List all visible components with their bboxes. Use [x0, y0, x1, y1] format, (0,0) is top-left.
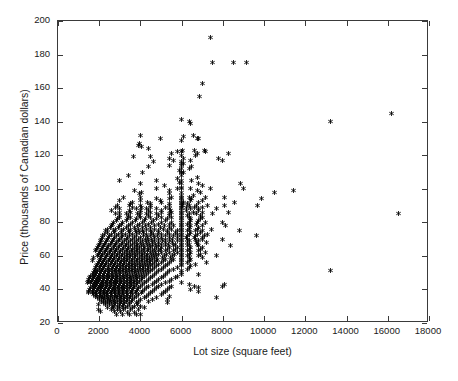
scatter-point	[120, 312, 125, 317]
x-tick-top	[182, 21, 183, 26]
x-tick	[223, 316, 224, 321]
x-tick-top	[305, 21, 306, 26]
y-tick	[58, 21, 63, 22]
scatter-point	[222, 195, 227, 200]
scatter-point	[146, 164, 151, 169]
x-tick	[305, 316, 306, 321]
scatter-point	[132, 188, 137, 193]
x-tick	[58, 316, 59, 321]
scatter-point	[188, 186, 193, 191]
scatter-point	[151, 159, 156, 164]
scatter-point	[146, 299, 151, 304]
scatter-point	[179, 138, 184, 143]
y-tick-right	[422, 256, 427, 257]
scatter-point	[232, 200, 237, 205]
scatter-point	[187, 166, 192, 171]
scatter-point	[140, 170, 145, 175]
scatter-point	[200, 81, 205, 86]
x-tick-label: 4000	[129, 326, 150, 336]
y-tick	[58, 88, 63, 89]
scatter-points-layer	[58, 21, 427, 321]
scatter-point	[244, 60, 249, 65]
x-tick-label: 12000	[291, 326, 317, 336]
scatter-point	[204, 260, 209, 265]
scatter-point	[165, 300, 170, 305]
scatter-point	[154, 186, 159, 191]
y-tick	[58, 155, 63, 156]
scatter-point	[98, 309, 103, 314]
scatter-point	[396, 211, 401, 216]
scatter-point	[188, 121, 193, 126]
x-tick-top	[140, 21, 141, 26]
scatter-point	[138, 181, 143, 186]
y-tick	[58, 256, 63, 257]
y-tick	[58, 222, 63, 223]
scatter-point	[210, 211, 215, 216]
scatter-point	[208, 35, 213, 40]
scatter-point	[226, 151, 231, 156]
y-tick	[58, 189, 63, 190]
plot-axes-frame	[57, 20, 428, 322]
scatter-point	[291, 188, 296, 193]
y-tick-right	[422, 289, 427, 290]
y-tick	[58, 55, 63, 56]
scatter-point	[142, 305, 147, 310]
scatter-point	[231, 60, 236, 65]
scatter-point	[254, 233, 259, 238]
x-tick	[347, 316, 348, 321]
x-tick-top	[388, 21, 389, 26]
scatter-point	[117, 178, 122, 183]
scatter-point	[196, 272, 201, 277]
y-tick-right	[422, 55, 427, 56]
scatter-point	[214, 295, 219, 300]
scatter-point	[208, 186, 213, 191]
y-axis-title: Price (thousands of Canadian dollars)	[18, 67, 30, 287]
y-tick-right	[422, 323, 427, 324]
x-tick	[388, 316, 389, 321]
scatter-point	[127, 312, 132, 317]
scatter-point	[223, 223, 228, 228]
y-tick-right	[422, 222, 427, 223]
scatter-point	[189, 178, 194, 183]
x-tick-label: 8000	[211, 326, 232, 336]
y-tick-right	[422, 88, 427, 89]
y-tick-label: 180	[0, 49, 50, 59]
scatter-point	[389, 111, 394, 116]
scatter-point	[241, 186, 246, 191]
scatter-point	[167, 163, 172, 168]
x-tick-top	[264, 21, 265, 26]
x-tick-label: 14000	[332, 326, 358, 336]
scatter-point	[131, 154, 136, 159]
scatter-point	[179, 280, 184, 285]
x-tick	[182, 316, 183, 321]
scatter-point	[188, 158, 193, 163]
scatter-point	[328, 268, 333, 273]
y-tick-right	[422, 155, 427, 156]
x-tick-label: 2000	[88, 326, 109, 336]
x-tick-label: 0	[54, 326, 59, 336]
scatter-point	[179, 117, 184, 122]
y-tick	[58, 289, 63, 290]
y-tick-right	[422, 122, 427, 123]
figure-scatter-plot: 0200040006000800010000120001400016000180…	[0, 0, 458, 381]
x-tick-label: 6000	[170, 326, 191, 336]
scatter-point	[259, 196, 264, 201]
scatter-point	[272, 190, 277, 195]
y-tick-right	[422, 189, 427, 190]
scatter-point	[195, 175, 200, 180]
scatter-point	[205, 203, 210, 208]
scatter-point	[146, 146, 151, 151]
x-tick	[264, 316, 265, 321]
scatter-point	[126, 173, 131, 178]
y-tick-label: 20	[0, 317, 50, 327]
x-tick-label: 18000	[415, 326, 441, 336]
scatter-point	[154, 178, 159, 183]
scatter-point	[138, 133, 143, 138]
x-tick-top	[429, 21, 430, 26]
x-tick-top	[223, 21, 224, 26]
scatter-point	[203, 149, 208, 154]
scatter-point	[114, 312, 119, 317]
scatter-point	[237, 228, 242, 233]
scatter-point	[220, 158, 225, 163]
x-tick-label: 16000	[374, 326, 400, 336]
